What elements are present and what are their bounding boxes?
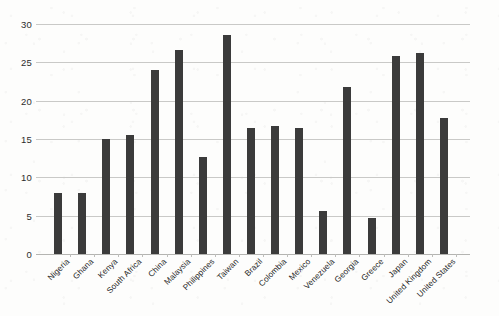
y-tick-label-25: 25 — [0, 57, 32, 68]
bar — [223, 35, 231, 254]
x-axis-tick-labels: NigeriaGhanaKenyaSouth AfricaChinaMalays… — [36, 257, 499, 316]
bar — [126, 135, 134, 254]
x-tick-label: Nigeria — [46, 257, 71, 282]
bar — [54, 193, 62, 254]
bar — [368, 218, 376, 254]
bar — [151, 70, 159, 254]
bar-chart: 051015202530 NigeriaGhanaKenyaSouth Afri… — [0, 0, 499, 316]
x-tick-label: Taiwan — [215, 257, 240, 282]
y-tick-label-20: 20 — [0, 95, 32, 106]
bar — [295, 128, 303, 255]
bar — [343, 87, 351, 254]
x-tick-label: China — [146, 257, 168, 279]
bar — [271, 126, 279, 254]
x-tick-label: Greece — [359, 257, 385, 283]
bar — [440, 118, 448, 254]
bars-series — [36, 24, 470, 254]
y-tick-label-15: 15 — [0, 134, 32, 145]
x-tick-label: Brazil — [243, 257, 264, 278]
bar — [78, 193, 86, 254]
y-axis-tick-labels: 051015202530 — [0, 24, 32, 254]
y-tick-label-10: 10 — [0, 172, 32, 183]
y-tick-label-30: 30 — [0, 19, 32, 30]
plot-area — [36, 24, 470, 254]
bar — [175, 50, 183, 254]
y-tick-label-0: 0 — [0, 249, 32, 260]
x-tick-label: Georgia — [333, 257, 360, 284]
bar — [319, 211, 327, 254]
y-tick-label-5: 5 — [0, 210, 32, 221]
x-tick-label: Ghana — [71, 257, 95, 281]
bar — [102, 139, 110, 254]
bar — [199, 157, 207, 254]
x-tick-label: Japan — [386, 257, 408, 279]
bar — [247, 128, 255, 254]
bar — [416, 53, 424, 254]
bar — [392, 56, 400, 254]
